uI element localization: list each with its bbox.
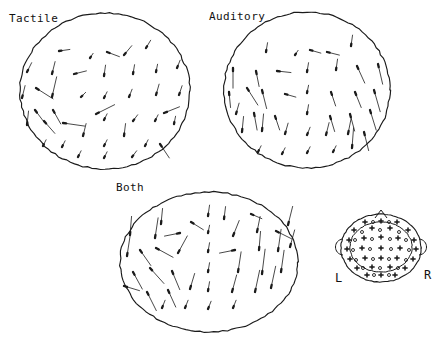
panel-label-tactile: Tactile [9, 12, 58, 25]
vector-head [254, 113, 255, 116]
vector-head [232, 250, 235, 251]
vector-head [35, 110, 37, 112]
vector-head [333, 150, 334, 152]
vector-head [124, 53, 126, 55]
vector-head [27, 70, 28, 72]
vector-head [327, 52, 330, 53]
montage-right-label: R [424, 268, 432, 282]
vector-head [251, 214, 253, 215]
vector-head [52, 71, 53, 74]
vector-head [364, 132, 365, 135]
vector-head [295, 54, 296, 55]
vector-head [307, 133, 308, 135]
vector-head [104, 144, 105, 146]
vector-head [43, 144, 44, 146]
vector-head [282, 152, 283, 154]
vector-head [83, 133, 84, 136]
vector-head [233, 233, 234, 236]
vector-head [350, 114, 351, 117]
vector-head [355, 92, 356, 95]
vector-head [208, 307, 209, 309]
vector-head [168, 290, 169, 293]
vector-head [132, 155, 133, 157]
vector-head [172, 271, 173, 274]
vector-head [275, 116, 276, 119]
vector-head [36, 88, 39, 90]
vector-head [177, 233, 180, 234]
vector-head [247, 88, 249, 91]
vector-head [285, 132, 286, 134]
vector-head [348, 131, 349, 134]
vector-head [104, 156, 105, 158]
vector-head [104, 118, 105, 120]
vector-head [276, 231, 279, 232]
vector-head [179, 93, 180, 95]
vector-head [236, 112, 237, 114]
vector-head [22, 95, 23, 98]
vector-field-figure [0, 0, 441, 344]
vector-head [330, 116, 331, 119]
vector-head [62, 145, 63, 147]
vector-head [378, 64, 379, 67]
vector-head [290, 244, 291, 247]
panel-label-both: Both [116, 181, 144, 194]
vector-head [190, 286, 191, 289]
vector-head [78, 155, 79, 157]
vector-head [156, 93, 157, 95]
vector-head [104, 96, 105, 98]
vector-head [53, 110, 55, 113]
vector-head [162, 306, 163, 308]
figure-canvas: Tactile Auditory Both L R [0, 0, 441, 344]
vector-head [178, 250, 180, 253]
vector-head [256, 71, 257, 74]
vector-head [357, 66, 358, 69]
montage-left-label: L [335, 271, 343, 285]
vector-head [310, 50, 312, 51]
vector-head [107, 52, 110, 53]
vector-head [307, 151, 308, 153]
vector-head [262, 90, 263, 93]
vector-head [150, 268, 152, 270]
vector-head [124, 286, 127, 287]
vector-head [326, 132, 327, 135]
vector-head [255, 289, 256, 292]
vector-head [233, 306, 234, 308]
vector-head [177, 66, 178, 68]
vector-head [147, 292, 148, 295]
vector-head [133, 272, 135, 275]
vector-head [370, 110, 371, 113]
vector-head [44, 121, 46, 123]
vector-head [52, 94, 53, 97]
vector-head [374, 90, 375, 93]
vector-head [156, 248, 159, 250]
vector-head [185, 306, 186, 308]
vector-head [133, 119, 134, 121]
vector-head [258, 150, 259, 152]
panel-label-auditory: Auditory [209, 10, 265, 23]
vector-head [145, 144, 146, 146]
vector-head [191, 222, 194, 224]
vector-head [257, 229, 258, 232]
vector-head [81, 96, 82, 97]
vector-head [232, 289, 233, 292]
vector-head [140, 250, 142, 253]
vector-head [160, 144, 162, 147]
vector-head [129, 95, 130, 97]
vector-head [288, 222, 289, 225]
vector-head [96, 113, 99, 114]
vector-head [155, 119, 156, 121]
vector-head [90, 57, 91, 58]
figure-background [0, 0, 441, 344]
vector-head [146, 46, 147, 48]
vector-head [74, 73, 77, 74]
vector-head [271, 285, 272, 288]
vector-head [331, 92, 332, 95]
vector-head [285, 94, 287, 95]
vector-head [164, 112, 167, 113]
